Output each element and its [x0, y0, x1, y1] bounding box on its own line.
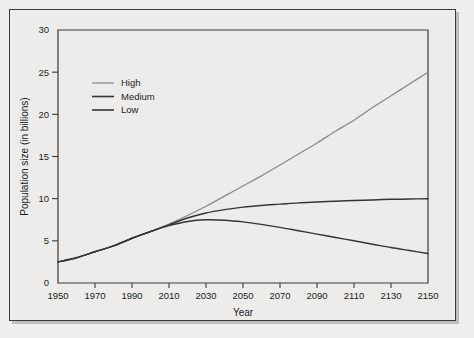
x-tick-label: 2030 [195, 290, 216, 301]
curve-low [58, 220, 428, 262]
population-projection-chart: 051015202530 195019701990201020302050207… [10, 10, 457, 322]
x-tick-label: 2090 [306, 290, 327, 301]
x-tick-label: 2150 [417, 290, 438, 301]
legend-label-high: High [121, 77, 141, 88]
y-tick-label: 0 [44, 277, 49, 288]
x-tick-label: 1950 [47, 290, 68, 301]
plot-frame [58, 30, 428, 283]
curve-high [58, 72, 428, 262]
chart-legend: HighMediumLow [92, 77, 155, 115]
x-tick-label: 2110 [344, 290, 364, 301]
y-axis-title: Population size (in billions) [19, 97, 30, 215]
y-tick-label: 25 [38, 67, 49, 78]
chart-plot-area: 051015202530 195019701990201020302050207… [10, 10, 457, 322]
y-tick-label: 5 [44, 235, 49, 246]
x-tick-label: 1970 [84, 290, 105, 301]
x-tick-label: 1990 [121, 290, 142, 301]
legend-label-low: Low [121, 104, 139, 115]
curve-medium [58, 199, 428, 262]
legend-label-medium: Medium [121, 91, 155, 102]
x-axis-ticks: 1950197019902010203020502070209021102130… [47, 283, 438, 301]
y-tick-label: 10 [38, 193, 49, 204]
y-tick-label: 20 [38, 109, 49, 120]
y-tick-label: 15 [38, 151, 49, 162]
data-curves [58, 72, 428, 262]
x-axis-title: Year [233, 307, 254, 318]
x-tick-label: 2070 [269, 290, 290, 301]
figure-panel: 051015202530 195019701990201020302050207… [9, 9, 456, 321]
x-tick-label: 2050 [232, 290, 253, 301]
x-tick-label: 2130 [380, 290, 401, 301]
x-tick-label: 2010 [158, 290, 179, 301]
y-axis-ticks: 051015202530 [38, 24, 58, 288]
y-tick-label: 30 [38, 24, 49, 35]
